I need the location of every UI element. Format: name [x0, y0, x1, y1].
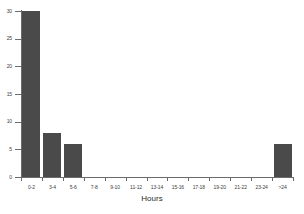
x-axis-tick [293, 177, 294, 181]
x-axis-line [21, 177, 293, 178]
bar [43, 133, 61, 177]
x-axis-tick [167, 177, 168, 181]
x-axis-tick [105, 177, 106, 181]
x-axis-tick [272, 177, 273, 181]
bar [64, 144, 82, 177]
bar [22, 11, 40, 177]
bar [274, 144, 292, 177]
x-axis-tick [188, 177, 189, 181]
x-axis-tick [42, 177, 43, 181]
x-axis-tick [84, 177, 85, 181]
y-axis-tick-label: 0 [0, 175, 12, 180]
histogram-chart: 051015202530 0-23-45-67-89-1011-1213-141… [0, 0, 304, 214]
y-axis-tick-label: 30 [0, 9, 12, 14]
x-axis-tick [209, 177, 210, 181]
x-axis-tick [126, 177, 127, 181]
x-axis-tick [63, 177, 64, 181]
x-axis-tick [147, 177, 148, 181]
x-axis-tick [21, 177, 22, 181]
x-axis-title: Hours [0, 194, 304, 204]
y-axis-tick-label: 15 [0, 92, 12, 97]
y-axis-tick-label: 10 [0, 119, 12, 124]
y-axis-tick-label: 25 [0, 36, 12, 41]
y-axis-tick-label: 20 [0, 64, 12, 69]
x-axis-tick [230, 177, 231, 181]
x-axis-tick-label: >24 [268, 184, 297, 190]
bars-layer [21, 11, 293, 177]
x-axis-tick [251, 177, 252, 181]
y-axis-tick-label: 5 [0, 147, 12, 152]
